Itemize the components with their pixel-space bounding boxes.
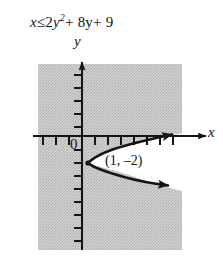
- x-axis-label: x: [208, 124, 215, 141]
- origin-label: 0: [70, 136, 78, 153]
- vertex-label: (1, –2): [105, 153, 142, 169]
- figure-container: x≤2y2+ 8y+ 9: [0, 0, 223, 271]
- vertex-point: [85, 160, 90, 165]
- y-axis-label: y: [74, 33, 81, 50]
- coordinate-plane-graph: [0, 0, 223, 271]
